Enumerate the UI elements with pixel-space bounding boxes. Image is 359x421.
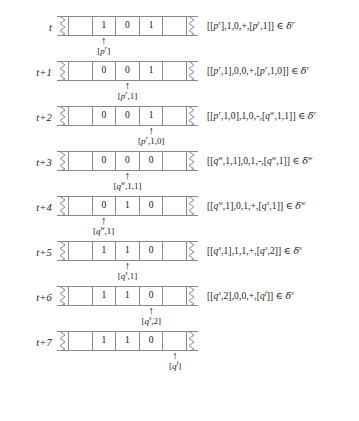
tape-head-pointer: ↑[qs,2] [121, 306, 181, 327]
tape-cell[interactable]: 1 [116, 242, 140, 260]
tape-cell[interactable]: 1 [140, 17, 164, 35]
head-state-label: [qs,2] [121, 316, 181, 327]
trace-row: t+5110↑[qs,1][[qs,1],1,1,+,[qs,2]] ∈ δs [0, 239, 359, 284]
head-state-label: [qw,1] [74, 226, 134, 237]
tape: 000 [57, 151, 198, 173]
tape-cell[interactable]: 1 [93, 287, 117, 305]
tape-cell[interactable]: 1 [116, 332, 140, 350]
tape: 110 [57, 241, 198, 263]
tape-cell[interactable] [69, 197, 93, 215]
tape-cell[interactable]: 0 [140, 152, 164, 170]
tape-right-zigzag-icon [186, 331, 198, 351]
tape-cell[interactable]: 0 [140, 332, 164, 350]
tape-cell[interactable]: 0 [93, 197, 117, 215]
tape-head-pointer: ↑[pr,1] [98, 81, 158, 102]
tape-cells: 000 [68, 151, 187, 171]
tape-cell[interactable] [69, 17, 93, 35]
transition-formula: [[qs,2],0,0,+,[qf]] ∈ δs [207, 289, 294, 303]
tape-cell[interactable]: 0 [140, 242, 164, 260]
tape-cell[interactable]: 1 [93, 332, 117, 350]
tape-cell[interactable]: 1 [140, 107, 164, 125]
tape-cell[interactable] [69, 287, 93, 305]
head-state-label: [pr] [74, 46, 134, 57]
time-step-label: t+4 [0, 202, 52, 213]
tape-right-zigzag-icon [186, 286, 198, 306]
tape-cell[interactable] [163, 152, 186, 170]
trace-row: t+1001↑[pr,1][[pr,1],0,0,+,[pr,1,0]] ∈ δ… [0, 59, 359, 104]
tape-cell[interactable]: 0 [116, 107, 140, 125]
head-state-label: [qs,1] [98, 271, 158, 282]
time-step-label: t+6 [0, 292, 52, 303]
tape-cell[interactable] [69, 242, 93, 260]
time-step-label: t+5 [0, 247, 52, 258]
tape-cell[interactable]: 0 [93, 107, 117, 125]
tape-cell[interactable] [69, 152, 93, 170]
tape-head-pointer: ↑[qf] [145, 351, 205, 372]
tape-cell[interactable]: 1 [93, 17, 117, 35]
tape-cell[interactable]: 1 [116, 197, 140, 215]
tape-cells: 001 [68, 61, 187, 81]
tape-cell[interactable] [163, 62, 186, 80]
tape-cells: 110 [68, 241, 187, 261]
tape-cells: 101 [68, 16, 187, 36]
transition-formula: [[pr],1,0,+,[pr,1]] ∈ δr [207, 19, 295, 33]
tape-cell[interactable] [69, 62, 93, 80]
tape-right-zigzag-icon [186, 106, 198, 126]
tape-cell[interactable] [163, 17, 186, 35]
tape-cells: 110 [68, 331, 187, 351]
tape-head-pointer: ↑[pr] [74, 36, 134, 57]
tape: 001 [57, 61, 198, 83]
time-step-label: t [0, 22, 52, 33]
tape: 101 [57, 16, 198, 38]
tape-right-zigzag-icon [186, 16, 198, 36]
tape-cells: 010 [68, 196, 187, 216]
head-state-label: [pr,1] [98, 91, 158, 102]
tape-cell[interactable] [163, 332, 186, 350]
tape-cells: 001 [68, 106, 187, 126]
tape-cell[interactable]: 0 [93, 62, 117, 80]
tape-cell[interactable] [163, 197, 186, 215]
tape-right-zigzag-icon [186, 196, 198, 216]
trace-row: t+7110↑[qf] [0, 329, 359, 374]
head-state-label: [qf] [145, 361, 205, 372]
tape-cell[interactable] [69, 107, 93, 125]
tape-cell[interactable]: 1 [116, 287, 140, 305]
head-state-label: [pr,1,0] [121, 136, 181, 147]
tape-cell[interactable]: 0 [140, 287, 164, 305]
trace-row: t+6110↑[qs,2][[qs,2],0,0,+,[qf]] ∈ δs [0, 284, 359, 329]
time-step-label: t+2 [0, 112, 52, 123]
tape: 001 [57, 106, 198, 128]
tape-cell[interactable] [69, 332, 93, 350]
trace-row: t+2001↑[pr,1,0][[pr,1,0],1,0,-,[qw,1,1]]… [0, 104, 359, 149]
tape-cell[interactable] [163, 287, 186, 305]
tape: 010 [57, 196, 198, 218]
transition-formula: [[qs,1],1,1,+,[qs,2]] ∈ δs [207, 244, 302, 258]
transition-formula: [[pr,1,0],1,0,-,[qw,1,1]] ∈ δr [207, 109, 316, 123]
tape: 110 [57, 286, 198, 308]
time-step-label: t+3 [0, 157, 52, 168]
tape-head-pointer: ↑[qw,1] [74, 216, 134, 237]
transition-formula: [[qw,1],0,1,+,[qs,1]] ∈ δw [207, 199, 306, 213]
tape-cell[interactable]: 1 [93, 242, 117, 260]
tape-right-zigzag-icon [186, 151, 198, 171]
tape-cell[interactable]: 0 [116, 62, 140, 80]
time-step-label: t+1 [0, 67, 52, 78]
tape-cell[interactable]: 0 [140, 197, 164, 215]
trace-row: t+4010↑[qw,1][[qw,1],0,1,+,[qs,1]] ∈ δw [0, 194, 359, 239]
tape-right-zigzag-icon [186, 61, 198, 81]
tape-cell[interactable] [163, 242, 186, 260]
tape-cell[interactable]: 0 [93, 152, 117, 170]
turing-machine-trace-figure: t101↑[pr][[pr],1,0,+,[pr,1]] ∈ δrt+1001↑… [0, 0, 359, 421]
tape-right-zigzag-icon [186, 241, 198, 261]
tape-cell[interactable]: 1 [140, 62, 164, 80]
tape-cell[interactable] [163, 107, 186, 125]
tape-cell[interactable]: 0 [116, 152, 140, 170]
tape-head-pointer: ↑[qw,1,1] [98, 171, 158, 192]
tape: 110 [57, 331, 198, 353]
tape-cell[interactable]: 0 [116, 17, 140, 35]
tape-head-pointer: ↑[pr,1,0] [121, 126, 181, 147]
time-step-label: t+7 [0, 337, 52, 348]
transition-formula: [[qw,1,1],0,1,-,[qw,1]] ∈ δw [207, 154, 312, 168]
head-state-label: [qw,1,1] [98, 181, 158, 192]
transition-formula: [[pr,1],0,0,+,[pr,1,0]] ∈ δr [207, 64, 309, 78]
